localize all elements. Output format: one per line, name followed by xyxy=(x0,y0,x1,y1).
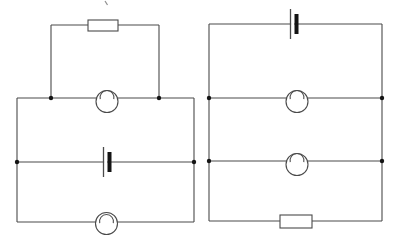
junction-dot xyxy=(380,159,384,163)
lamp-symbol xyxy=(286,154,308,176)
junction-dot xyxy=(207,96,211,100)
battery-thick-plate xyxy=(295,14,299,34)
lamp-circle xyxy=(286,154,308,176)
battery-gap xyxy=(291,22,294,27)
battery-cell-symbol xyxy=(291,9,299,39)
battery-gap xyxy=(104,160,107,165)
resistor-box xyxy=(280,215,312,228)
battery-thick-plate xyxy=(108,152,112,172)
battery-cell-symbol xyxy=(104,147,112,177)
junction-dot xyxy=(380,96,384,100)
lamp-circle xyxy=(96,91,118,113)
junction-dot xyxy=(207,159,211,163)
right-circuit xyxy=(207,9,384,228)
stray-ink-mark xyxy=(105,1,108,5)
resistor-symbol xyxy=(88,20,118,31)
resistor-symbol xyxy=(280,215,312,228)
junction-dot xyxy=(192,160,196,164)
lamp-symbol xyxy=(96,213,118,235)
lamp-symbol xyxy=(96,91,118,113)
junction-dot xyxy=(15,160,19,164)
lamp-circle xyxy=(286,91,308,113)
circuit-diagrams-figure xyxy=(0,0,393,241)
circuits-svg xyxy=(0,0,393,241)
junction-dot xyxy=(157,96,161,100)
lamp-symbol xyxy=(286,91,308,113)
junction-dot xyxy=(49,96,53,100)
lamp-circle xyxy=(96,213,118,235)
left-circuit xyxy=(15,20,196,235)
resistor-box xyxy=(88,20,118,31)
